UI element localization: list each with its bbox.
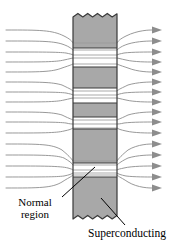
field-line-right-12	[117, 144, 152, 161]
field-line-left-14	[6, 166, 73, 170]
field-line-left-7	[6, 92, 73, 95]
arrowhead-icon-9	[152, 109, 162, 116]
band-3	[73, 103, 117, 117]
superconducting-bar	[73, 13, 117, 219]
field-line-right-10	[117, 122, 152, 124]
field-line-right-8	[117, 98, 152, 102]
field-line-right-3	[117, 52, 152, 55]
field-arrowheads	[152, 27, 162, 192]
field-line-left-9	[6, 112, 73, 120]
field-line-right-4	[117, 58, 152, 62]
field-line-left-3	[6, 52, 73, 55]
arrowhead-icon-3	[152, 49, 162, 56]
figure-container: Normal region Superconducting	[0, 0, 186, 244]
field-line-right-13	[117, 155, 152, 165]
arrowhead-icon-5	[152, 69, 162, 76]
field-line-right-14	[117, 166, 152, 170]
label-normal-line1: Normal	[4, 196, 66, 208]
label-normal-region: Normal region	[4, 196, 66, 220]
field-line-right-6	[117, 82, 152, 91]
field-line-left-6	[6, 82, 73, 91]
field-line-left-15	[6, 173, 73, 177]
field-line-left-11	[6, 128, 73, 133]
field-line-left-8	[6, 98, 73, 102]
superconducting-bands	[73, 13, 117, 219]
band-2	[73, 67, 117, 88]
field-line-right-7	[117, 92, 152, 95]
band-4	[73, 129, 117, 163]
field-line-left-5	[6, 64, 73, 72]
arrowhead-icon-11	[152, 130, 162, 137]
arrowhead-icon-6	[152, 79, 162, 86]
field-line-left-4	[6, 58, 73, 62]
field-line-right-15	[117, 173, 152, 177]
field-line-right-2	[117, 41, 152, 50]
arrowhead-icon-14	[152, 163, 162, 170]
arrowhead-icon-8	[152, 99, 162, 106]
arrowhead-icon-15	[152, 174, 162, 181]
arrowhead-icon-4	[152, 59, 162, 66]
arrowhead-icon-7	[152, 89, 162, 96]
field-line-right-11	[117, 128, 152, 133]
field-line-right-5	[117, 64, 152, 72]
field-line-left-10	[6, 122, 73, 124]
field-line-left-12	[6, 144, 73, 161]
arrowhead-icon-13	[152, 152, 162, 159]
arrowhead-icon-16	[152, 185, 162, 192]
arrowhead-icon-12	[152, 141, 162, 148]
field-line-left-2	[6, 41, 73, 50]
arrowhead-icon-2	[152, 38, 162, 45]
label-superconducting: Superconducting	[88, 227, 166, 239]
field-line-left-13	[6, 155, 73, 165]
field-line-right-9	[117, 112, 152, 120]
arrowhead-icon-1	[152, 27, 162, 34]
arrowhead-icon-10	[152, 119, 162, 126]
label-normal-line2: region	[4, 208, 66, 220]
band-5	[73, 177, 117, 219]
